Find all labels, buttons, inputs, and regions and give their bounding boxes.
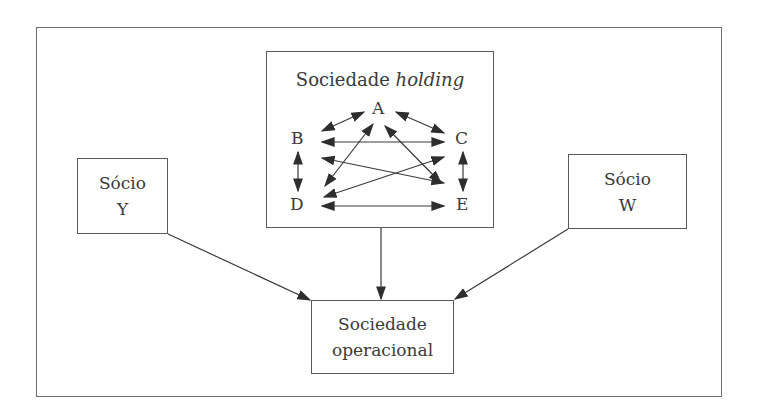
partner-y-line2: Y xyxy=(117,196,128,222)
node-e: E xyxy=(456,194,468,214)
operating-company-box: Sociedade operacional xyxy=(311,300,454,374)
node-b: B xyxy=(291,128,304,148)
partner-w-line1: Sócio xyxy=(604,166,651,192)
partner-y-box: Sócio Y xyxy=(77,158,168,234)
node-a: A xyxy=(372,98,384,118)
operating-line2: operacional xyxy=(332,337,433,363)
holding-title-regular: Sociedade xyxy=(296,69,396,90)
operating-line1: Sociedade xyxy=(338,311,427,337)
node-d: D xyxy=(290,194,304,214)
holding-title: Sociedade holding xyxy=(267,67,493,93)
partner-w-line2: W xyxy=(619,192,636,218)
partner-y-line1: Sócio xyxy=(99,170,146,196)
node-c: C xyxy=(455,128,468,148)
partner-w-box: Sócio W xyxy=(568,154,687,229)
holding-title-italic: holding xyxy=(396,69,465,90)
